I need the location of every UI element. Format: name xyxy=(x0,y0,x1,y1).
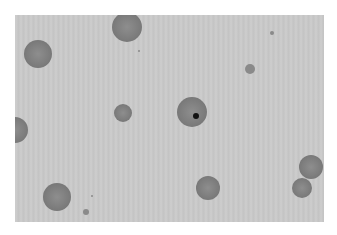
cell-left-edge xyxy=(15,117,28,143)
cell-bottom-left xyxy=(43,183,71,211)
nucleus-dot xyxy=(193,113,199,119)
cell-bottom-center xyxy=(196,176,220,200)
speck xyxy=(270,31,274,35)
cell-top-left xyxy=(24,40,52,68)
cell-right-upper xyxy=(299,155,323,179)
speck xyxy=(245,64,255,74)
speck xyxy=(83,209,89,215)
cell-center-nucleated xyxy=(177,97,207,127)
speck xyxy=(138,50,140,52)
cell-top-center xyxy=(112,15,142,42)
speck xyxy=(91,195,93,197)
cell-center-small xyxy=(114,104,132,122)
cell-right-lower xyxy=(292,178,312,198)
micrograph-field xyxy=(15,15,324,222)
